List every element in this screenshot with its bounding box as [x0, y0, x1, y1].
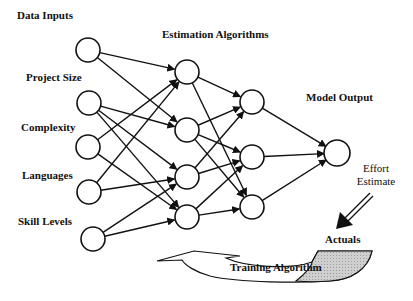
connection-arrow — [195, 112, 244, 168]
effort-label: Effort — [363, 162, 389, 174]
hidden1-node-0 — [175, 60, 199, 84]
model-output-title: Model Output — [306, 91, 373, 103]
estimate-label: Estimate — [357, 175, 396, 187]
actuals-label: Actuals — [325, 233, 361, 245]
nodes-group — [76, 38, 350, 251]
input-node-3 — [77, 180, 101, 204]
edges-group — [97, 53, 326, 237]
input-label-languages: Languages — [22, 169, 73, 181]
data-inputs-title: Data Inputs — [17, 9, 74, 21]
connection-arrow — [262, 160, 326, 201]
connection-arrow — [199, 209, 239, 215]
connection-arrow — [195, 139, 244, 197]
connection-arrow — [103, 184, 176, 232]
hidden2-node-1 — [240, 145, 264, 169]
hidden1-node-3 — [175, 205, 199, 229]
training-algorithm-label: Training Algorithm — [230, 261, 322, 273]
input-label-complexity: Complexity — [21, 121, 76, 133]
input-node-0 — [76, 38, 100, 62]
connection-arrow — [98, 154, 177, 210]
connection-arrow — [97, 112, 179, 207]
connection-arrow — [262, 108, 326, 146]
connection-arrow — [264, 154, 324, 157]
hidden2-node-0 — [240, 90, 264, 114]
connection-arrow — [105, 220, 175, 236]
input-node-4 — [81, 227, 105, 251]
connection-arrow — [97, 82, 179, 183]
output-node-0 — [324, 140, 350, 166]
connection-arrow — [100, 53, 175, 70]
input-node-2 — [76, 135, 100, 159]
hidden1-node-1 — [175, 118, 199, 142]
input-node-1 — [77, 91, 101, 115]
double-arrow-icon — [336, 193, 373, 229]
neural-network-diagram: Data Inputs Estimation Algorithms Model … — [0, 0, 413, 301]
estimation-algorithms-title: Estimation Algorithms — [162, 28, 269, 40]
connection-arrow — [198, 77, 240, 97]
input-label-skill-levels: Skill Levels — [18, 215, 73, 227]
hidden2-node-2 — [240, 195, 264, 219]
input-label-project-size: Project Size — [26, 71, 82, 83]
hidden1-node-2 — [175, 165, 199, 189]
